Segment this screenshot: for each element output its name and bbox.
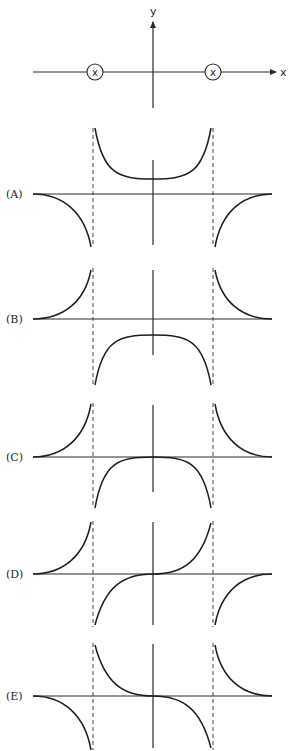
- y-axis-label: y: [150, 5, 157, 18]
- option-label: (C): [6, 451, 23, 464]
- charge-right: x: [205, 64, 221, 80]
- curve-outer-right: [215, 574, 272, 625]
- option-label: (A): [6, 188, 23, 201]
- curve-outer-left: [33, 404, 91, 457]
- option-label: (E): [6, 690, 23, 703]
- option-b-graph: (B): [6, 268, 272, 385]
- option-label: (B): [6, 313, 23, 326]
- curve-outer-right: [215, 645, 272, 696]
- curve-outer-left: [33, 696, 91, 750]
- curve-outer-right: [215, 194, 272, 247]
- option-d-graph: (D): [6, 521, 272, 627]
- x-axis-label: x: [280, 66, 287, 79]
- curve-outer-left: [33, 522, 91, 574]
- charge-symbol: x: [210, 67, 216, 78]
- electric-field-diagram: x y x x (A) (B) (C) (D) (E): [0, 0, 288, 751]
- curve-outer-left: [33, 194, 91, 247]
- option-e-graph: (E): [6, 643, 272, 750]
- charge-left: x: [87, 64, 103, 80]
- curve-outer-left: [33, 270, 91, 319]
- option-label: (D): [6, 568, 23, 581]
- charge-configuration-diagram: x y x x: [33, 5, 287, 108]
- option-a-graph: (A): [6, 128, 272, 247]
- curve-outer-right: [215, 270, 272, 319]
- charge-symbol: x: [92, 67, 98, 78]
- curve-outer-right: [215, 404, 272, 457]
- option-c-graph: (C): [6, 403, 272, 508]
